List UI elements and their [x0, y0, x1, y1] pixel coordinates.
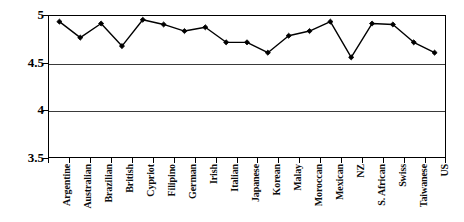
x-axis-category-label: British [125, 164, 135, 222]
x-tick-mark [320, 158, 321, 163]
x-axis-category-label: Mexican [335, 164, 345, 222]
x-axis-category-label: Brazilian [104, 164, 114, 222]
y-tick-mark [42, 110, 48, 111]
x-tick-mark [257, 158, 258, 163]
x-tick-mark [362, 158, 363, 163]
x-axis-category-label: Taiwanese [419, 164, 429, 222]
x-axis-category-label: Japanese [251, 164, 261, 222]
x-tick-mark [90, 158, 91, 163]
x-tick-mark [132, 158, 133, 163]
x-tick-mark [153, 158, 154, 163]
gridline [49, 111, 445, 112]
x-axis-category-label: Korean [272, 164, 282, 222]
series-line [49, 16, 445, 157]
x-tick-mark [69, 158, 70, 163]
y-axis: 3.544.55 [0, 0, 44, 222]
data-point-marker [307, 28, 312, 33]
x-tick-mark [404, 158, 405, 163]
x-axis-category-label: Australian [83, 164, 93, 222]
y-tick-mark [42, 158, 48, 159]
x-axis-category-label: Filipino [167, 164, 177, 222]
x-axis-category-label: Argentine [62, 164, 72, 222]
x-axis-category-label: Swiss [398, 164, 408, 222]
x-axis-category-label: Italian [230, 164, 240, 222]
plot-area [48, 15, 446, 158]
y-tick-mark [42, 63, 48, 64]
x-tick-mark [48, 158, 49, 163]
x-tick-mark [278, 158, 279, 163]
data-point-marker [182, 28, 187, 33]
x-axis-category-label: US [440, 164, 450, 222]
x-axis-labels: ArgentineAustralianBrazilianBritishCypri… [48, 164, 446, 222]
line-chart: 3.544.55 ArgentineAustralianBrazilianBri… [0, 0, 464, 222]
x-tick-mark [299, 158, 300, 163]
x-tick-mark [111, 158, 112, 163]
x-tick-mark [425, 158, 426, 163]
x-axis-category-label: S. African [377, 164, 387, 222]
x-axis-category-label: German [188, 164, 198, 222]
y-tick-mark [42, 15, 48, 16]
gridline [49, 64, 445, 65]
x-tick-mark [195, 158, 196, 163]
x-tick-mark [341, 158, 342, 163]
x-axis-category-label: Irish [209, 164, 219, 222]
x-tick-mark [445, 158, 446, 163]
x-tick-mark [237, 158, 238, 163]
data-point-marker [161, 22, 166, 27]
x-axis-category-label: Cypriot [146, 164, 156, 222]
x-tick-mark [174, 158, 175, 163]
x-tick-mark [383, 158, 384, 163]
x-tick-mark [216, 158, 217, 163]
x-axis-category-label: Malay [293, 164, 303, 222]
x-axis-category-label: NZ [356, 164, 366, 222]
x-axis-category-label: Moroccan [314, 164, 324, 222]
series-polyline [59, 20, 434, 58]
data-point-marker [244, 40, 249, 45]
data-point-marker [432, 50, 437, 55]
